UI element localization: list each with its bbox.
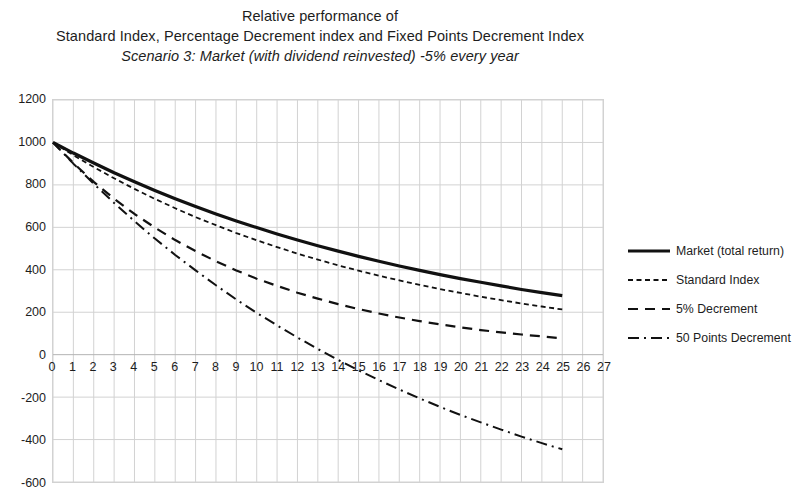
x-tick-label: 20 bbox=[454, 360, 468, 374]
series-lines bbox=[53, 100, 603, 482]
x-tick-label: 7 bbox=[192, 360, 199, 374]
y-tick-label: 1000 bbox=[2, 135, 46, 149]
y-tick-label: -200 bbox=[2, 391, 46, 405]
x-tick-label: 21 bbox=[474, 360, 488, 374]
y-tick-label: 600 bbox=[2, 220, 46, 234]
x-tick-label: 16 bbox=[372, 360, 386, 374]
x-tick-label: 25 bbox=[556, 360, 570, 374]
x-tick-label: 22 bbox=[495, 360, 509, 374]
legend-label: 5% Decrement bbox=[676, 302, 757, 316]
y-tick-label: 200 bbox=[2, 305, 46, 319]
legend-swatch-dashdot-icon bbox=[628, 331, 670, 345]
x-tick-label: 19 bbox=[433, 360, 447, 374]
x-tick-label: 8 bbox=[212, 360, 219, 374]
y-axis-tick-labels: 120010008006004002000-200-400-600 bbox=[0, 99, 46, 483]
legend-label: Standard Index bbox=[676, 273, 759, 287]
x-tick-label: 24 bbox=[536, 360, 550, 374]
series-line-3 bbox=[53, 142, 562, 449]
series-line-2 bbox=[53, 142, 562, 338]
chart-legend: Market (total return)Standard Index5% De… bbox=[628, 236, 792, 352]
title-line-3: Scenario 3: Market (with dividend reinve… bbox=[0, 46, 640, 66]
x-tick-label: 6 bbox=[171, 360, 178, 374]
x-tick-label: 1 bbox=[69, 360, 76, 374]
legend-swatch-dotted-dash-icon bbox=[628, 273, 670, 287]
series-line-0 bbox=[53, 142, 562, 295]
y-tick-label: -400 bbox=[2, 433, 46, 447]
legend-swatch-dashed-icon bbox=[628, 302, 670, 316]
plot-area bbox=[52, 99, 604, 483]
x-tick-label: 18 bbox=[413, 360, 427, 374]
x-tick-label: 3 bbox=[110, 360, 117, 374]
x-tick-label: 11 bbox=[270, 360, 283, 374]
x-tick-label: 5 bbox=[151, 360, 158, 374]
x-tick-label: 14 bbox=[331, 360, 345, 374]
y-tick-label: 400 bbox=[2, 263, 46, 277]
x-tick-label: 15 bbox=[352, 360, 366, 374]
legend-item[interactable]: 50 Points Decrement bbox=[628, 323, 792, 352]
legend-item[interactable]: 5% Decrement bbox=[628, 294, 792, 323]
y-tick-label: 800 bbox=[2, 177, 46, 191]
legend-item[interactable]: Standard Index bbox=[628, 265, 792, 294]
x-tick-label: 27 bbox=[597, 360, 611, 374]
y-tick-label: -600 bbox=[2, 476, 46, 490]
x-tick-label: 2 bbox=[89, 360, 96, 374]
title-line-1: Relative performance of bbox=[0, 6, 640, 26]
x-tick-label: 9 bbox=[233, 360, 240, 374]
chart-figure: Relative performance of Standard Index, … bbox=[0, 0, 795, 497]
x-tick-label: 17 bbox=[393, 360, 407, 374]
x-tick-label: 26 bbox=[577, 360, 591, 374]
x-tick-label: 23 bbox=[515, 360, 529, 374]
chart-title: Relative performance of Standard Index, … bbox=[0, 6, 640, 66]
x-tick-label: 12 bbox=[290, 360, 304, 374]
legend-swatch-solid-icon bbox=[628, 244, 670, 258]
x-tick-label: 13 bbox=[311, 360, 325, 374]
y-tick-label: 0 bbox=[2, 348, 46, 362]
y-tick-label: 1200 bbox=[2, 92, 46, 106]
legend-item[interactable]: Market (total return) bbox=[628, 236, 792, 265]
x-axis-tick-labels: 0123456789101112131415161718192021222324… bbox=[52, 360, 604, 380]
x-tick-label: 0 bbox=[49, 360, 56, 374]
legend-label: 50 Points Decrement bbox=[676, 331, 791, 345]
x-tick-label: 10 bbox=[249, 360, 263, 374]
x-tick-label: 4 bbox=[130, 360, 137, 374]
legend-label: Market (total return) bbox=[676, 244, 784, 258]
title-line-2: Standard Index, Percentage Decrement ind… bbox=[0, 26, 640, 46]
